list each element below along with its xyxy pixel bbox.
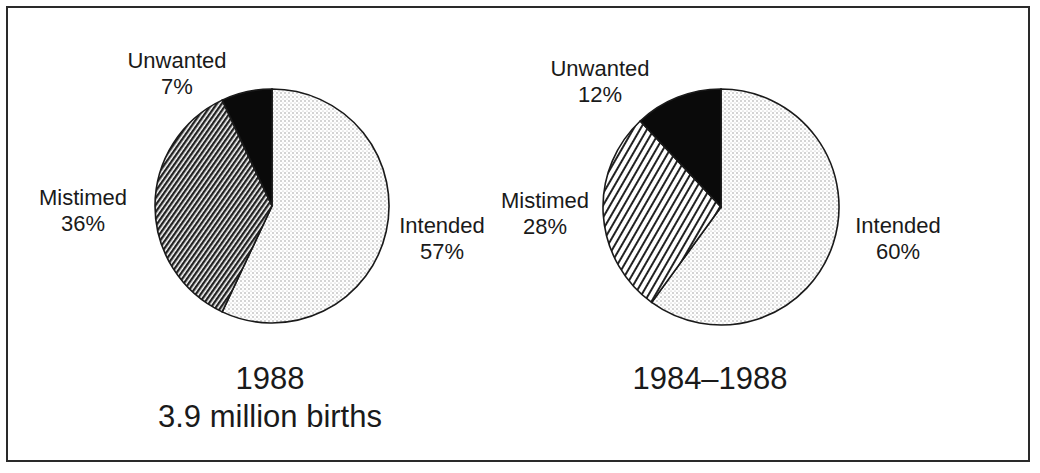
label-unwanted-1988: Unwanted 7%: [112, 48, 242, 100]
label-name: Unwanted: [112, 48, 242, 74]
caption-1988: 1988 3.9 million births: [120, 360, 420, 436]
pie-1988: [155, 89, 389, 323]
label-mistimed-1984-1988: Mistimed 28%: [480, 188, 610, 240]
pie-1984-1988: [603, 89, 839, 325]
label-value: 12%: [530, 82, 670, 108]
caption-births: 3.9 million births: [120, 398, 420, 436]
label-intended-1984-1988: Intended 60%: [833, 213, 963, 265]
caption-year: 1984–1988: [560, 360, 860, 398]
label-unwanted-1984-1988: Unwanted 12%: [530, 56, 670, 108]
caption-1984-1988: 1984–1988: [560, 360, 860, 398]
label-mistimed-1988: Mistimed 36%: [18, 185, 148, 237]
label-name: Mistimed: [480, 188, 610, 214]
label-value: 28%: [480, 214, 610, 240]
label-value: 36%: [18, 211, 148, 237]
label-name: Mistimed: [18, 185, 148, 211]
label-value: 7%: [112, 74, 242, 100]
label-value: 57%: [377, 239, 507, 265]
caption-year: 1988: [120, 360, 420, 398]
label-name: Intended: [833, 213, 963, 239]
label-name: Unwanted: [530, 56, 670, 82]
label-value: 60%: [833, 239, 963, 265]
